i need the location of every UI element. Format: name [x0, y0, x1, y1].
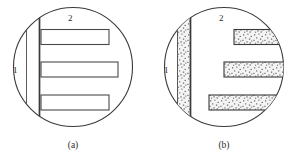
panel-b-bar-middle [224, 62, 299, 77]
figure-root: 1 2 (a) 1 2 (b) [0, 0, 299, 153]
panel-a-label-2: 2 [68, 13, 73, 23]
panel-a-bar-bottom [41, 95, 109, 110]
panel-b-label-2: 2 [219, 13, 224, 23]
panel-b-caption: (b) [218, 140, 229, 151]
panel-b-bar-bottom [209, 95, 299, 110]
panel-b-label-1: 1 [164, 65, 169, 75]
panel-a-bar-middle [41, 62, 118, 77]
panel-b-vertical-band-fill [177, 5, 190, 131]
panel-b: 1 2 (b) [164, 5, 299, 151]
panel-b-bar-top [234, 30, 299, 45]
panel-a-bar-top [41, 30, 109, 45]
panel-a-caption: (a) [68, 140, 79, 151]
panel-a: 1 2 (a) [13, 8, 133, 152]
panel-a-label-1: 1 [13, 65, 18, 75]
two-panel-figure: 1 2 (a) 1 2 (b) [0, 0, 299, 153]
